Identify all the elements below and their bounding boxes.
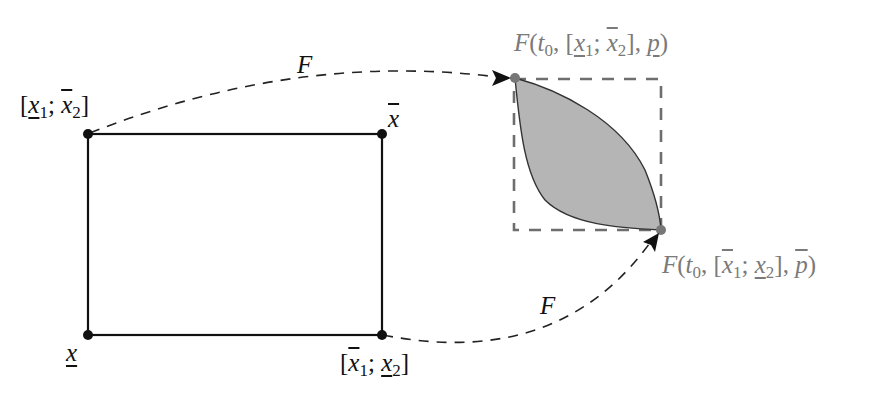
label-image-bottom: F(t0, [x1; x2], p) — [662, 252, 816, 281]
image-region — [515, 78, 661, 230]
corner-point-top-right — [377, 129, 387, 139]
label-arrow-top: F — [297, 52, 312, 77]
mapping-arrow-top — [90, 71, 505, 133]
label-top-left-corner: [x1; x2] — [20, 92, 89, 121]
corner-point-bottom-left — [83, 330, 93, 340]
image-point-top — [510, 73, 520, 83]
arrowhead-top-icon — [492, 70, 511, 86]
mapping-arrow-bottom — [383, 240, 652, 342]
diagram-graphics — [0, 0, 885, 401]
domain-box — [88, 134, 382, 335]
label-arrow-bottom: F — [540, 293, 555, 318]
label-bottom-left-corner: x — [66, 340, 77, 365]
corner-point-top-left — [83, 129, 93, 139]
corner-point-bottom-right — [377, 330, 387, 340]
label-image-top: F(t0, [x1; x2], p) — [514, 30, 668, 59]
diagram-canvas: [x1; x2] x x [x1; x2] F F F(t0, [x1; x2]… — [0, 0, 885, 401]
label-top-right-corner: x — [388, 106, 399, 131]
image-point-bottom — [656, 225, 666, 235]
label-bottom-right-corner: [x1; x2] — [340, 350, 409, 379]
